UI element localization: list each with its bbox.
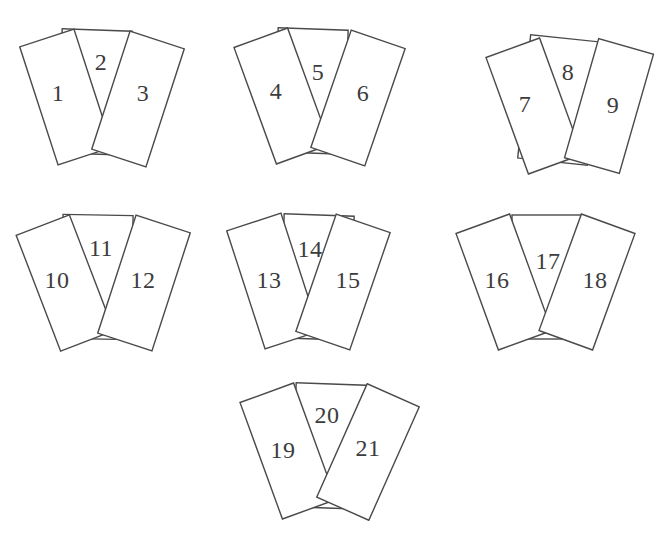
card-number-13: 13 [257, 267, 282, 293]
card-number-5: 5 [312, 59, 325, 85]
card-number-20: 20 [315, 402, 340, 428]
card-number-15: 15 [336, 267, 361, 293]
card-number-1: 1 [52, 80, 65, 106]
card-number-18: 18 [583, 267, 608, 293]
card-number-8: 8 [562, 59, 575, 85]
card-group-7-8-9: 879 [486, 35, 653, 174]
card-group-13-14-15: 141315 [227, 213, 390, 350]
card-number-4: 4 [270, 78, 283, 104]
card-number-2: 2 [95, 49, 108, 75]
card-group-19-20-21: 201921 [240, 383, 419, 520]
card-number-9: 9 [607, 92, 620, 118]
card-number-16: 16 [485, 267, 510, 293]
card-number-21: 21 [356, 435, 381, 461]
card-number-14: 14 [298, 236, 323, 262]
card-number-7: 7 [519, 91, 532, 117]
card-number-6: 6 [357, 80, 370, 106]
card-number-17: 17 [536, 248, 561, 274]
card-number-11: 11 [89, 235, 113, 261]
card-number-3: 3 [137, 80, 150, 106]
cards-figure: 213546879111012141315171618201921 [0, 0, 664, 535]
figure-page: 213546879111012141315171618201921 [0, 0, 664, 535]
card-group-1-2-3: 213 [20, 29, 185, 167]
card-number-19: 19 [271, 437, 296, 463]
card-number-10: 10 [45, 267, 70, 293]
card-group-4-5-6: 546 [234, 28, 405, 166]
card-number-12: 12 [131, 267, 156, 293]
card-group-16-17-18: 171618 [456, 214, 635, 350]
card-group-10-11-12: 111012 [16, 214, 190, 351]
